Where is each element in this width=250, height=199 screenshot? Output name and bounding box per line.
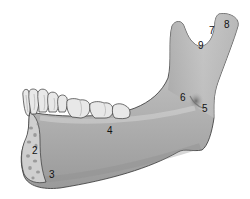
label-6: 6 [180, 92, 186, 103]
label-4: 4 [107, 125, 113, 136]
mandible-diagram: 2 3 4 5 6 7 8 9 [0, 0, 250, 199]
label-5: 5 [202, 103, 208, 114]
tooth-premolar-2 [58, 95, 68, 112]
tooth-molar-1 [67, 99, 90, 118]
label-2: 2 [32, 145, 38, 156]
label-7: 7 [209, 25, 215, 36]
tooth-canine [38, 89, 49, 112]
label-9: 9 [198, 40, 204, 51]
tooth-incisor-2 [29, 89, 39, 114]
label-8: 8 [224, 19, 230, 30]
tooth-premolar-1 [48, 92, 59, 112]
label-3: 3 [49, 169, 55, 180]
tooth-molar-3 [112, 104, 130, 119]
tooth-molar-2 [90, 102, 113, 118]
